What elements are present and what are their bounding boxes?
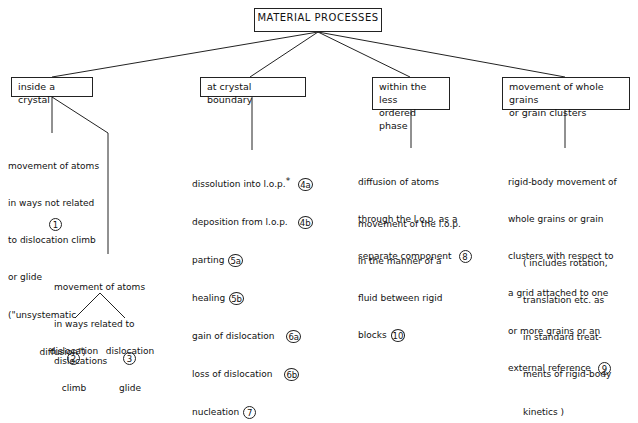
asterisk-footnote: * — [286, 176, 291, 186]
marker-6a: 6a — [286, 330, 301, 343]
text-line: ( includes rotation, — [523, 257, 611, 269]
text-line: kinetics ) — [523, 406, 611, 418]
node-lop-fluid-movement: movement of the l.o.p. in the manner of … — [358, 193, 461, 355]
process-item: nucleation7 — [192, 406, 313, 419]
text-line: rigid-body movement of — [508, 176, 617, 188]
marker-2: 2 — [67, 352, 80, 365]
category-label-line: or grain clusters — [509, 106, 623, 119]
text-line: diffusion of atoms — [358, 176, 472, 188]
marker-6b: 6b — [284, 368, 299, 381]
process-item: healing5b — [192, 292, 313, 305]
text-line: translation etc. as — [523, 294, 611, 306]
note-rigid-body-kinetics: ( includes rotation, translation etc. as… — [523, 232, 611, 423]
text-line: blocks10 — [358, 329, 461, 342]
category-label-line: movement of whole grains — [509, 80, 623, 106]
category-label-line: ordered phase — [379, 106, 443, 132]
marker-5a: 5a — [228, 254, 243, 267]
text-line: in standard treat- — [523, 331, 611, 343]
text-line: movement of atoms — [54, 281, 145, 293]
text-line: ments of rigid-body — [523, 368, 611, 380]
marker-3: 3 — [123, 352, 136, 365]
marker-10: 10 — [391, 329, 406, 342]
process-item: loss of dislocation6b — [192, 368, 313, 381]
boundary-process-list: dissolution into l.o.p.*4a deposition fr… — [192, 153, 313, 423]
marker-5b: 5b — [229, 292, 244, 305]
text-line: movement of atoms — [8, 160, 99, 172]
category-crystal-boundary: at crystal boundary — [200, 77, 306, 97]
process-item: gain of dislocation6a — [192, 330, 313, 343]
marker-4a: 4a — [298, 178, 313, 191]
category-label-line: within the less — [379, 80, 443, 106]
text-line: glide — [105, 382, 155, 394]
marker-1: 1 — [49, 218, 62, 231]
text-line: in ways not related — [8, 197, 99, 209]
text-line: in the manner of a — [358, 255, 461, 267]
text-line: to dislocation climb — [8, 234, 99, 246]
marker-4b: 4b — [298, 216, 313, 229]
root-node-material-processes: MATERIAL PROCESSES — [254, 8, 382, 32]
process-item: dissolution into l.o.p.*4a — [192, 178, 313, 191]
text-line: movement of the l.o.p. — [358, 218, 461, 230]
text-line: whole grains or grain — [508, 213, 617, 225]
category-whole-grains: movement of whole grains or grain cluste… — [502, 77, 630, 110]
text-line: fluid between rigid — [358, 292, 461, 304]
process-item: parting5a — [192, 254, 313, 267]
category-less-ordered-phase: within the less ordered phase — [372, 77, 450, 110]
text-line: climb — [44, 382, 104, 394]
category-inside-crystal: inside a crystal — [11, 77, 93, 97]
marker-7: 7 — [243, 406, 256, 419]
process-item: deposition from l.o.p.4b — [192, 216, 313, 229]
